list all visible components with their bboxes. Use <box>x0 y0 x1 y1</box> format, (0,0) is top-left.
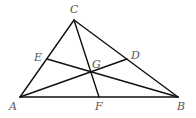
label-f: F <box>94 100 103 113</box>
label-a: A <box>8 100 17 113</box>
triangle-diagram: C A B E D G F <box>0 0 196 118</box>
label-g: G <box>92 58 101 71</box>
label-e: E <box>33 51 42 64</box>
label-c: C <box>70 3 79 16</box>
side-bc <box>74 20 178 97</box>
label-b: B <box>176 100 185 113</box>
label-d: D <box>130 49 140 62</box>
